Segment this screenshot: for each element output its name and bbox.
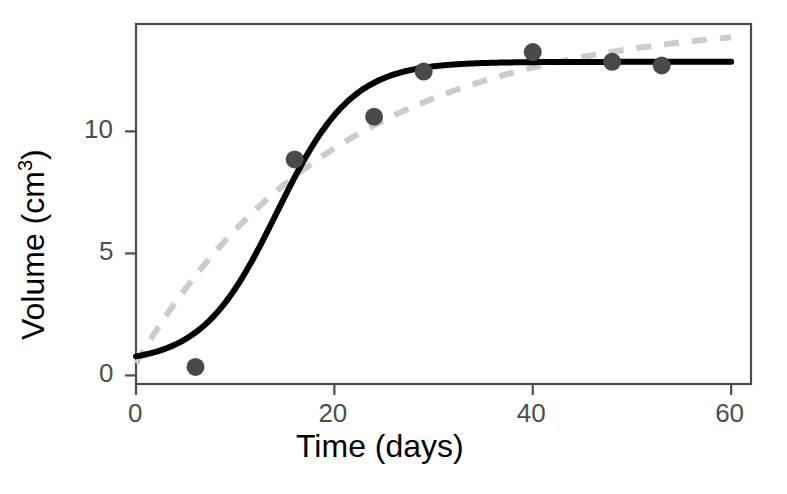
data-point xyxy=(187,358,205,376)
data-point xyxy=(603,53,621,71)
plot-canvas xyxy=(0,0,787,494)
x-axis-title: Time (days) xyxy=(296,428,464,465)
y-tick-label-0: 0 xyxy=(99,358,113,389)
x-tick-label-20: 20 xyxy=(318,398,347,429)
x-tick-label-0: 0 xyxy=(128,398,142,429)
y-axis-title-exponent: 3 xyxy=(14,160,36,171)
data-point xyxy=(365,108,383,126)
y-tick-label-10: 10 xyxy=(84,114,113,145)
y-tick-label-5: 5 xyxy=(99,236,113,267)
x-tick-label-60: 60 xyxy=(715,398,744,429)
panel-background xyxy=(136,24,751,384)
y-axis-title: Volume (cm3) xyxy=(14,149,52,340)
data-point xyxy=(286,150,304,168)
data-point xyxy=(524,43,542,61)
data-point xyxy=(653,56,671,74)
data-point xyxy=(415,63,433,81)
x-tick-label-40: 40 xyxy=(517,398,546,429)
chart-figure: 0204060 0510 Time (days) Volume (cm3) xyxy=(0,0,787,494)
